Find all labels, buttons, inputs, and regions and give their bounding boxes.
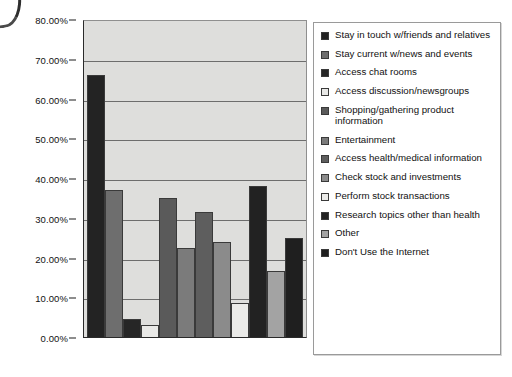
bar-slot (123, 21, 141, 337)
y-axis-tick-mark (69, 20, 76, 21)
bar-slot (159, 21, 177, 337)
legend-item: Check stock and investments (321, 171, 495, 182)
bar (267, 271, 285, 337)
legend-item-label: Stay current w/news and events (335, 48, 472, 59)
legend-item: Perform stock transactions (321, 190, 495, 201)
y-axis-tick-label: 50.00% (35, 134, 68, 145)
y-axis-tick-mark (69, 179, 76, 180)
legend-color-swatch-icon (321, 107, 329, 115)
legend-item-label: Other (335, 227, 359, 238)
legend-item-label: Check stock and investments (335, 171, 461, 182)
y-axis: 0.00%10.00%20.00%30.00%40.00%50.00%60.00… (18, 14, 76, 344)
y-axis-tick-label: 60.00% (35, 94, 68, 105)
legend-item-label: Research topics other than health (335, 209, 480, 220)
legend-color-swatch-icon (321, 88, 329, 96)
legend-item-label: Access discussion/newsgroups (335, 85, 469, 96)
legend-item-label: Entertainment (335, 134, 395, 145)
y-axis-tick-label: 30.00% (35, 213, 68, 224)
y-axis-tick-label: 40.00% (35, 174, 68, 185)
legend-color-swatch-icon (321, 155, 329, 163)
bar-slot (285, 21, 303, 337)
bar (105, 190, 123, 337)
y-axis-tick-label: 10.00% (35, 293, 68, 304)
bar (87, 75, 105, 337)
chart-legend: Stay in touch w/friends and relativesSta… (313, 22, 501, 355)
legend-item-label: Stay in touch w/friends and relatives (335, 29, 490, 40)
legend-item: Shopping/gathering product information (321, 104, 495, 126)
legend-item: Don't Use the Internet (321, 246, 495, 257)
bar (123, 319, 141, 337)
bar-slot (249, 21, 267, 337)
bar-slot (231, 21, 249, 337)
legend-item-label: Access health/medical information (335, 152, 482, 163)
bar-chart-figure: 0.00%10.00%20.00%30.00%40.00%50.00%60.00… (0, 0, 512, 377)
y-axis-tick-mark (69, 258, 76, 259)
legend-item: Access discussion/newsgroups (321, 85, 495, 96)
bar (141, 325, 159, 337)
legend-color-swatch-icon (321, 193, 329, 201)
y-axis-tick-label: 20.00% (35, 253, 68, 264)
y-axis-tick-mark (69, 298, 76, 299)
legend-item: Research topics other than health (321, 209, 495, 220)
legend-color-swatch-icon (321, 249, 329, 257)
bar (195, 212, 213, 337)
legend-item: Entertainment (321, 134, 495, 145)
bar-series (84, 21, 306, 337)
y-axis-tick-mark (69, 99, 76, 100)
bar-slot (87, 21, 105, 337)
legend-item: Access health/medical information (321, 152, 495, 163)
legend-color-swatch-icon (321, 137, 329, 145)
legend-color-swatch-icon (321, 230, 329, 238)
legend-color-swatch-icon (321, 32, 329, 40)
y-axis-tick-label: 70.00% (35, 54, 68, 65)
legend-item-label: Access chat rooms (335, 66, 417, 77)
legend-item-label: Shopping/gathering product information (335, 104, 493, 126)
legend-item-label: Don't Use the Internet (335, 246, 429, 257)
bar (231, 303, 249, 337)
bar-slot (177, 21, 195, 337)
legend-color-swatch-icon (321, 69, 329, 77)
bar (177, 248, 195, 337)
legend-item: Access chat rooms (321, 66, 495, 77)
y-axis-tick-mark (69, 218, 76, 219)
y-axis-tick-mark (69, 338, 76, 339)
legend-color-swatch-icon (321, 51, 329, 59)
bar-slot (141, 21, 159, 337)
bar (249, 186, 267, 337)
bar-slot (267, 21, 285, 337)
bar-slot (105, 21, 123, 337)
y-axis-tick-label: 80.00% (35, 15, 68, 26)
bar (213, 242, 231, 337)
legend-item: Stay in touch w/friends and relatives (321, 29, 495, 40)
legend-item: Other (321, 227, 495, 238)
legend-item: Stay current w/news and events (321, 48, 495, 59)
bar (159, 198, 177, 337)
bar (285, 238, 303, 337)
bar-slot (213, 21, 231, 337)
legend-item-label: Perform stock transactions (335, 190, 450, 201)
y-axis-tick-mark (69, 59, 76, 60)
legend-color-swatch-icon (321, 174, 329, 182)
bar-slot (195, 21, 213, 337)
y-axis-tick-label: 0.00% (41, 333, 68, 344)
y-axis-tick-mark (69, 139, 76, 140)
legend-color-swatch-icon (321, 212, 329, 220)
plot-area (83, 20, 307, 338)
